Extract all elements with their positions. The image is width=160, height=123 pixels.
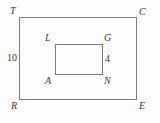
vertex-label-A: A xyxy=(45,76,51,86)
vertex-label-L: L xyxy=(45,33,51,43)
vertex-label-C: C xyxy=(139,7,146,17)
measurement-label-inner-right-side: 4 xyxy=(105,54,110,64)
geometry-figure: T C R E L G A N 10 4 xyxy=(0,0,160,123)
inner-rectangle-LGNA xyxy=(55,44,103,75)
vertex-label-R: R xyxy=(11,101,17,111)
vertex-label-G: G xyxy=(104,33,111,43)
vertex-label-E: E xyxy=(139,101,145,111)
vertex-label-N: N xyxy=(104,76,111,86)
vertex-label-T: T xyxy=(10,6,16,16)
measurement-label-outer-left-side: 10 xyxy=(7,53,17,63)
